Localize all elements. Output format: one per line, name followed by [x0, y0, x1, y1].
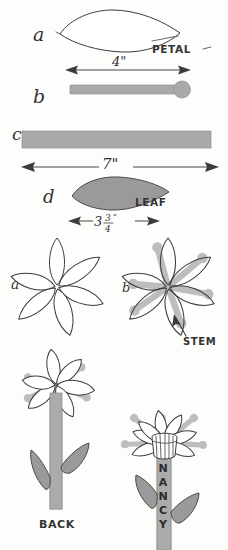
name-letter-4: C [159, 504, 167, 517]
back-view-stem-front [50, 393, 62, 509]
name-letter-5: Y [158, 518, 168, 531]
stem-pin-bar [70, 85, 175, 94]
diagram-sheet: a PETAL b 4" c 7" d [0, 0, 228, 550]
stem-pin-ball [174, 81, 191, 98]
name-letter-3: N [158, 490, 167, 503]
petal-name-label: PETAL [152, 43, 191, 55]
leaf-name-label: LEAF [135, 196, 167, 208]
leaf-dimension-whole: 3 [94, 214, 102, 229]
leaf-dimension-denominator: 4 [104, 224, 111, 234]
name-letter-2: A [159, 476, 168, 489]
name-letter-1: N [158, 462, 167, 475]
stem-callout-label: STEM [183, 336, 216, 347]
long-bar-shape [22, 131, 211, 148]
leaf-step-label: d [43, 186, 55, 207]
petal-step-label: a [33, 23, 44, 45]
stem-pin-step-label: b [33, 85, 45, 107]
long-bar-dimension-label: 7" [102, 155, 118, 173]
leaf-dimension-numerator: 3 [105, 213, 111, 223]
front-view-name-group: N A N C Y [158, 462, 168, 531]
long-bar-step-label: c [12, 124, 22, 144]
stem-pin-dimension-label: 4" [111, 54, 126, 69]
leaf-dimension-unit: " [113, 212, 117, 221]
back-view-caption: BACK [39, 518, 75, 531]
